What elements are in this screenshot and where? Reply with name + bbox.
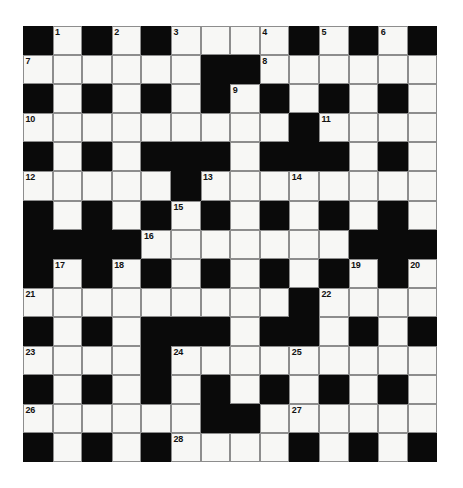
answer-cell[interactable] — [230, 288, 260, 317]
answer-cell[interactable] — [112, 55, 142, 84]
answer-cell[interactable] — [53, 317, 83, 346]
answer-cell[interactable] — [408, 113, 438, 142]
answer-cell[interactable] — [82, 404, 112, 433]
answer-cell[interactable] — [230, 346, 260, 375]
answer-cell[interactable]: 21 — [23, 288, 53, 317]
answer-cell[interactable] — [260, 230, 290, 259]
answer-cell[interactable]: 27 — [289, 404, 319, 433]
answer-cell[interactable]: 28 — [171, 433, 201, 462]
answer-cell[interactable] — [53, 201, 83, 230]
answer-cell[interactable] — [53, 171, 83, 200]
answer-cell[interactable] — [82, 55, 112, 84]
answer-cell[interactable]: 14 — [289, 171, 319, 200]
answer-cell[interactable] — [349, 113, 379, 142]
answer-cell[interactable] — [408, 346, 438, 375]
answer-cell[interactable] — [378, 404, 408, 433]
answer-cell[interactable] — [378, 55, 408, 84]
answer-cell[interactable] — [53, 404, 83, 433]
answer-cell[interactable] — [378, 171, 408, 200]
answer-cell[interactable] — [53, 375, 83, 404]
answer-cell[interactable] — [230, 317, 260, 346]
answer-cell[interactable] — [201, 346, 231, 375]
answer-cell[interactable] — [230, 433, 260, 462]
answer-cell[interactable] — [289, 259, 319, 288]
answer-cell[interactable] — [171, 84, 201, 113]
answer-cell[interactable] — [408, 375, 438, 404]
answer-cell[interactable] — [260, 171, 290, 200]
answer-cell[interactable] — [82, 288, 112, 317]
answer-cell[interactable] — [171, 288, 201, 317]
answer-cell[interactable] — [171, 55, 201, 84]
answer-cell[interactable]: 17 — [53, 259, 83, 288]
answer-cell[interactable]: 25 — [289, 346, 319, 375]
answer-cell[interactable] — [230, 26, 260, 55]
answer-cell[interactable]: 11 — [319, 113, 349, 142]
answer-cell[interactable] — [141, 288, 171, 317]
answer-cell[interactable] — [201, 113, 231, 142]
answer-cell[interactable] — [112, 142, 142, 171]
answer-cell[interactable] — [53, 288, 83, 317]
answer-cell[interactable] — [349, 346, 379, 375]
answer-cell[interactable]: 13 — [201, 171, 231, 200]
answer-cell[interactable] — [141, 55, 171, 84]
answer-cell[interactable] — [319, 55, 349, 84]
answer-cell[interactable] — [82, 171, 112, 200]
answer-cell[interactable] — [201, 26, 231, 55]
answer-cell[interactable] — [289, 201, 319, 230]
answer-cell[interactable] — [53, 55, 83, 84]
answer-cell[interactable] — [319, 346, 349, 375]
answer-cell[interactable] — [112, 171, 142, 200]
answer-cell[interactable] — [319, 433, 349, 462]
answer-cell[interactable] — [141, 171, 171, 200]
answer-cell[interactable] — [230, 142, 260, 171]
answer-cell[interactable]: 20 — [408, 259, 438, 288]
answer-cell[interactable]: 26 — [23, 404, 53, 433]
answer-cell[interactable] — [260, 113, 290, 142]
answer-cell[interactable] — [230, 259, 260, 288]
answer-cell[interactable] — [319, 317, 349, 346]
answer-cell[interactable] — [260, 404, 290, 433]
answer-cell[interactable] — [349, 404, 379, 433]
answer-cell[interactable] — [230, 171, 260, 200]
answer-cell[interactable] — [319, 404, 349, 433]
answer-cell[interactable]: 12 — [23, 171, 53, 200]
answer-cell[interactable] — [112, 433, 142, 462]
answer-cell[interactable] — [53, 142, 83, 171]
answer-cell[interactable]: 6 — [378, 26, 408, 55]
answer-cell[interactable] — [112, 375, 142, 404]
answer-cell[interactable] — [112, 346, 142, 375]
answer-cell[interactable] — [53, 346, 83, 375]
answer-cell[interactable] — [408, 171, 438, 200]
answer-cell[interactable] — [408, 142, 438, 171]
answer-cell[interactable] — [289, 55, 319, 84]
answer-cell[interactable] — [378, 113, 408, 142]
answer-cell[interactable] — [408, 404, 438, 433]
answer-cell[interactable] — [349, 142, 379, 171]
answer-cell[interactable] — [319, 171, 349, 200]
answer-cell[interactable] — [319, 230, 349, 259]
crossword-grid[interactable]: 1234567891011121314151617181920212223242… — [23, 26, 437, 462]
answer-cell[interactable]: 9 — [230, 84, 260, 113]
answer-cell[interactable] — [230, 113, 260, 142]
answer-cell[interactable]: 7 — [23, 55, 53, 84]
answer-cell[interactable] — [53, 433, 83, 462]
answer-cell[interactable] — [112, 404, 142, 433]
answer-cell[interactable] — [349, 201, 379, 230]
answer-cell[interactable]: 3 — [171, 26, 201, 55]
answer-cell[interactable] — [82, 113, 112, 142]
answer-cell[interactable] — [349, 84, 379, 113]
answer-cell[interactable] — [289, 84, 319, 113]
answer-cell[interactable] — [349, 288, 379, 317]
answer-cell[interactable]: 24 — [171, 346, 201, 375]
answer-cell[interactable] — [141, 404, 171, 433]
answer-cell[interactable] — [289, 375, 319, 404]
answer-cell[interactable] — [112, 113, 142, 142]
answer-cell[interactable] — [230, 201, 260, 230]
answer-cell[interactable]: 1 — [53, 26, 83, 55]
answer-cell[interactable]: 23 — [23, 346, 53, 375]
answer-cell[interactable]: 22 — [319, 288, 349, 317]
answer-cell[interactable] — [201, 230, 231, 259]
answer-cell[interactable] — [408, 288, 438, 317]
answer-cell[interactable] — [260, 433, 290, 462]
answer-cell[interactable] — [349, 171, 379, 200]
